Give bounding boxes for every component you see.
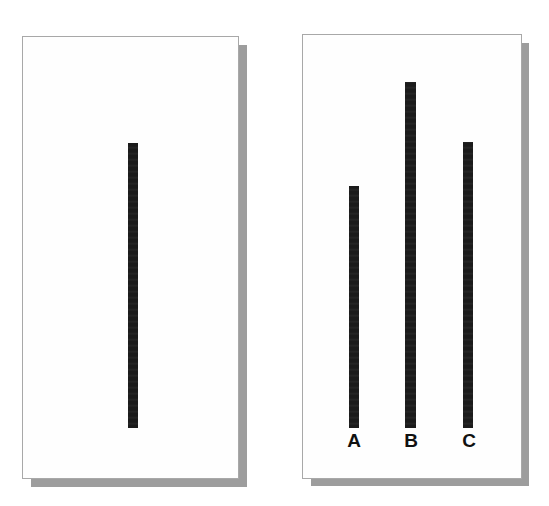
- bar-label-b: B: [398, 431, 424, 451]
- bar-label-c: C: [456, 431, 482, 451]
- right-panel-bar-b: [405, 82, 416, 428]
- figure-canvas: A B C: [0, 0, 549, 506]
- bar-label-a: A: [341, 431, 367, 451]
- left-panel-bar: [128, 143, 138, 428]
- right-panel-bar-c: [463, 142, 473, 428]
- right-panel-bar-a: [349, 186, 359, 428]
